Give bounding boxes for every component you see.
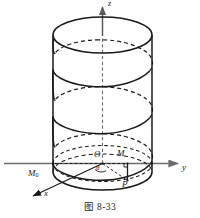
point-m-label: M — [117, 149, 125, 158]
helix-turn2-front — [53, 117, 150, 134]
point-m0-dot — [52, 162, 54, 164]
point-m-dot — [126, 162, 128, 164]
origin-label: O — [94, 150, 101, 159]
helix-turn2-back-a — [99, 87, 153, 118]
helix-turn1-back-a — [99, 134, 153, 165]
point-m0-letter: M — [28, 168, 36, 178]
x-axis-label: x — [44, 189, 48, 198]
point-m0-sub: 0 — [36, 172, 39, 178]
origin-dot — [101, 162, 103, 164]
helix-turn3-front — [53, 70, 150, 87]
figure-caption: 图 8-33 — [0, 199, 200, 213]
point-p-label: P — [122, 180, 128, 189]
point-m0-label: M0 — [28, 169, 39, 178]
helix-cylinder-diagram — [0, 0, 200, 218]
z-axis-label: z — [108, 0, 111, 8]
angle-theta-label: θ — [96, 165, 99, 172]
helix-turn2-back-b — [55, 87, 99, 100]
y-axis-label: y — [182, 163, 186, 172]
helix-turn1-back-b — [55, 134, 99, 147]
figure-container: z y x O M P M0 θ 图 8-33 — [0, 0, 200, 218]
